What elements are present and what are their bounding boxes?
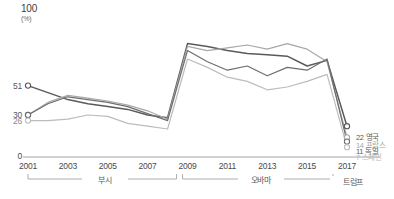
series-marker-spain-end bbox=[344, 145, 349, 150]
series-marker-united-kingdom-end bbox=[344, 124, 349, 129]
series-marker-spain-start bbox=[25, 118, 30, 123]
y-axis-tick-zero: 0 bbox=[0, 151, 22, 161]
confidence-in-us-president-line-chart: 100 (%) 51302602001200320052007200920112… bbox=[0, 0, 394, 199]
series-line-france bbox=[28, 44, 347, 138]
y-axis-tick-26: 26 bbox=[0, 116, 22, 126]
x-axis-tick-2017: 2017 bbox=[330, 161, 364, 171]
x-axis-tick-2015: 2015 bbox=[290, 161, 324, 171]
x-axis-tick-2005: 2005 bbox=[91, 161, 125, 171]
series-line-spain bbox=[28, 59, 347, 147]
series-marker-germany-start bbox=[25, 112, 30, 117]
era-label-obama: 오바마 bbox=[238, 174, 284, 185]
x-axis-tick-2009: 2009 bbox=[171, 161, 205, 171]
x-axis-tick-2013: 2013 bbox=[250, 161, 284, 171]
era-label-bush: 부시 bbox=[82, 174, 128, 185]
series-marker-united-kingdom-start bbox=[25, 83, 30, 88]
x-axis-tick-2007: 2007 bbox=[131, 161, 165, 171]
end-label-name-3: 스페인 bbox=[360, 153, 382, 162]
series-line-united-kingdom bbox=[28, 44, 347, 127]
x-axis-tick-2003: 2003 bbox=[51, 161, 85, 171]
y-axis-tick-51: 51 bbox=[0, 81, 22, 91]
end-label-3: 7 스페인 bbox=[356, 151, 382, 162]
series-marker-germany-end bbox=[344, 139, 349, 144]
x-axis-tick-2011: 2011 bbox=[210, 161, 244, 171]
era-label-trump: 트럼프 bbox=[330, 176, 376, 187]
x-axis-tick-2001: 2001 bbox=[11, 161, 45, 171]
